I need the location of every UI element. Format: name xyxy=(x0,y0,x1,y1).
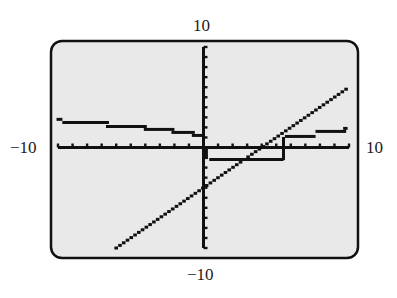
x-tick xyxy=(188,144,190,148)
y-tick xyxy=(204,166,208,168)
linear-graph-pixel xyxy=(269,140,273,143)
x-tick xyxy=(71,144,73,148)
linear-graph-pixel xyxy=(152,220,156,223)
linear-graph-pixel xyxy=(292,124,296,127)
x-tick xyxy=(86,144,88,148)
x-tick xyxy=(231,144,233,148)
x-tick xyxy=(246,144,248,148)
x-tick xyxy=(100,144,102,148)
linear-graph-pixel xyxy=(216,176,220,179)
linear-graph-pixel xyxy=(288,127,292,130)
y-tick xyxy=(204,96,208,98)
linear-graph-pixel xyxy=(205,184,209,187)
linear-graph-pixel xyxy=(329,98,333,101)
linear-graph-pixel xyxy=(163,213,167,216)
x-tick xyxy=(217,144,219,148)
linear-graph-pixel xyxy=(171,207,175,210)
linear-graph-pixel xyxy=(322,103,326,106)
y-tick xyxy=(204,86,208,88)
linear-graph-pixel xyxy=(160,215,164,218)
linear-graph-pixel xyxy=(341,90,345,93)
linear-graph-pixel xyxy=(145,226,149,229)
calculator-graph-screen xyxy=(0,0,397,298)
linear-graph-pixel xyxy=(258,148,262,151)
x-tick xyxy=(130,144,132,148)
linear-graph-pixel xyxy=(201,187,205,190)
y-tick xyxy=(204,76,208,78)
linear-graph-pixel xyxy=(178,202,182,205)
y-tick xyxy=(204,247,208,249)
linear-graph-pixel xyxy=(310,111,314,114)
linear-graph-pixel xyxy=(118,244,122,247)
linear-graph-pixel xyxy=(133,233,137,236)
linear-graph-pixel xyxy=(212,179,216,182)
linear-graph-pixel xyxy=(295,122,299,125)
y-tick xyxy=(204,106,208,108)
linear-graph-pixel xyxy=(126,239,130,242)
y-tick xyxy=(204,116,208,118)
linear-graph-pixel xyxy=(254,150,258,153)
linear-graph-pixel xyxy=(235,163,239,166)
linear-graph-pixel xyxy=(148,223,152,226)
y-tick xyxy=(204,126,208,128)
linear-graph-pixel xyxy=(209,181,213,184)
linear-graph-pixel xyxy=(261,145,265,148)
linear-graph-pixel xyxy=(141,228,145,231)
linear-graph-pixel xyxy=(280,132,284,135)
linear-graph-pixel xyxy=(333,96,337,99)
linear-graph-pixel xyxy=(114,247,118,250)
linear-graph-pixel xyxy=(182,200,186,203)
linear-graph-pixel xyxy=(224,171,228,174)
y-tick xyxy=(204,197,208,199)
linear-graph-pixel xyxy=(318,106,322,109)
linear-graph-pixel xyxy=(307,114,311,117)
x-tick xyxy=(173,144,175,148)
linear-graph-pixel xyxy=(246,155,250,158)
linear-graph-pixel xyxy=(186,197,190,200)
linear-graph-pixel xyxy=(299,119,303,122)
linear-graph-pixel xyxy=(167,210,171,213)
x-tick xyxy=(333,144,335,148)
linear-graph-pixel xyxy=(194,192,198,195)
x-tick xyxy=(144,144,146,148)
x-tick xyxy=(348,144,350,148)
linear-graph-pixel xyxy=(129,236,133,239)
linear-graph-pixel xyxy=(190,194,194,197)
linear-graph-pixel xyxy=(273,137,277,140)
y-tick xyxy=(204,176,208,178)
linear-graph-pixel xyxy=(175,205,179,208)
linear-graph-pixel xyxy=(137,231,141,234)
y-tick xyxy=(204,66,208,68)
y-tick xyxy=(204,46,208,48)
linear-graph-pixel xyxy=(325,101,329,104)
linear-graph-pixel xyxy=(227,168,231,171)
x-tick xyxy=(304,144,306,148)
y-tick xyxy=(204,217,208,219)
y-tick xyxy=(204,56,208,58)
x-tick xyxy=(115,144,117,148)
linear-graph-pixel xyxy=(284,129,288,132)
x-tick xyxy=(159,144,161,148)
x-tick xyxy=(275,144,277,148)
y-tick xyxy=(204,207,208,209)
linear-graph-pixel xyxy=(344,88,348,91)
x-tick xyxy=(290,144,292,148)
linear-graph-pixel xyxy=(276,135,280,138)
linear-graph-pixel xyxy=(337,93,341,96)
linear-graph-pixel xyxy=(122,241,126,244)
linear-graph-pixel xyxy=(303,116,307,119)
linear-graph-pixel xyxy=(197,189,201,192)
y-tick xyxy=(204,237,208,239)
linear-graph-pixel xyxy=(156,218,160,221)
linear-graph-pixel xyxy=(220,174,224,177)
linear-graph-pixel xyxy=(314,109,318,112)
linear-graph-pixel xyxy=(250,153,254,156)
linear-graph-pixel xyxy=(265,142,269,145)
x-tick xyxy=(319,144,321,148)
y-tick xyxy=(204,227,208,229)
linear-graph-pixel xyxy=(231,166,235,169)
x-tick xyxy=(57,144,59,148)
y-tick xyxy=(204,136,208,138)
